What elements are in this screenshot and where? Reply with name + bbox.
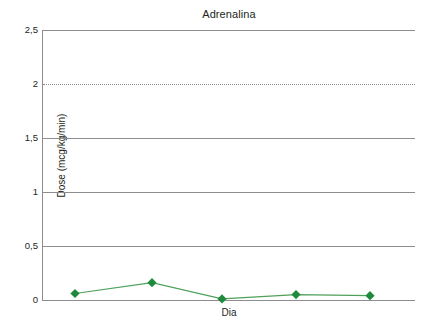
chart-title: Adrenalina	[43, 8, 415, 20]
gridline-2-5	[43, 30, 415, 31]
y-tick-label: 0,5	[4, 240, 38, 251]
gridline-1	[43, 192, 415, 193]
y-tick-label: 0	[4, 294, 38, 305]
gridline-1-5	[43, 138, 415, 139]
y-tick-label: 2	[4, 78, 38, 89]
y-tick-label: 1,5	[4, 132, 38, 143]
y-axis-title: Dose (mcg/kg/min)	[56, 76, 67, 236]
gridline-0	[43, 300, 415, 301]
gridline-2	[43, 84, 415, 85]
y-tick-label: 2,5	[4, 24, 38, 35]
page-bottom-text-fragment	[0, 325, 421, 333]
x-axis-title: Dia	[43, 307, 415, 318]
gridline-0-5	[43, 246, 415, 247]
plot-area: Dose (mcg/kg/min)	[43, 30, 415, 300]
y-tick-label: 1	[4, 186, 38, 197]
chart-figure: Adrenalina Dose (mcg/kg/min) 2,521,510,5…	[0, 0, 421, 333]
